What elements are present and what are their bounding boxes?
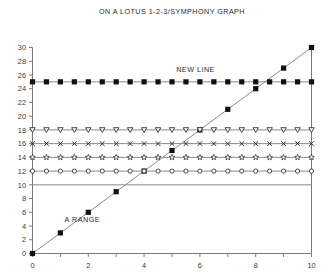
marker-filled-square <box>169 148 174 153</box>
marker-open-circle <box>86 169 90 173</box>
marker-open-circle <box>184 169 188 173</box>
marker-filled-square <box>239 79 244 84</box>
marker-filled-square <box>114 79 119 84</box>
marker-open-circle <box>44 169 48 173</box>
y-tick-label: 22 <box>18 98 26 107</box>
marker-filled-square <box>225 79 230 84</box>
marker-star <box>295 154 301 159</box>
y-tick-label: 24 <box>18 84 26 93</box>
marker-star <box>253 154 259 159</box>
marker-star <box>30 154 36 159</box>
marker-open-circle <box>295 169 299 173</box>
marker-star <box>44 154 50 159</box>
x-tick-label: 8 <box>254 261 258 270</box>
marker-open-circle <box>142 169 146 173</box>
marker-star <box>197 154 203 159</box>
x-tick-label: 6 <box>198 261 202 270</box>
marker-filled-square <box>211 79 216 84</box>
marker-filled-square <box>169 79 174 84</box>
marker-star <box>113 154 119 159</box>
y-tick-label: 6 <box>22 208 26 217</box>
marker-open-circle <box>100 169 104 173</box>
marker-star <box>85 154 91 159</box>
marker-filled-square <box>72 79 77 84</box>
y-tick-label: 12 <box>18 167 26 176</box>
marker-star <box>58 154 64 159</box>
marker-star <box>99 154 105 159</box>
marker-filled-square <box>30 251 35 256</box>
marker-filled-square <box>86 79 91 84</box>
x-tick-label: 10 <box>307 261 315 270</box>
lotus-symphony-line-chart: ON A LOTUS 1-2-3/SYMPHONY GRAPH024681012… <box>0 0 323 279</box>
marker-filled-square <box>197 79 202 84</box>
series-new-line <box>30 79 314 84</box>
x-tick-label: 2 <box>86 261 90 270</box>
marker-filled-square <box>267 79 272 84</box>
marker-open-circle <box>198 169 202 173</box>
annotation-a-range: A RANGE <box>65 215 100 224</box>
y-tick-label: 8 <box>22 194 26 203</box>
marker-open-circle <box>212 169 216 173</box>
marker-open-circle <box>30 169 34 173</box>
marker-star <box>225 154 231 159</box>
marker-open-circle <box>170 169 174 173</box>
series-a-range <box>30 45 314 256</box>
marker-filled-square <box>128 79 133 84</box>
marker-open-circle <box>58 169 62 173</box>
x-tick-label: 0 <box>30 261 34 270</box>
marker-open-circle <box>282 169 286 173</box>
y-tick-label: 2 <box>22 235 26 244</box>
marker-open-circle <box>226 169 230 173</box>
marker-star <box>127 154 133 159</box>
marker-filled-square <box>309 45 314 50</box>
series-line-14 <box>30 154 315 159</box>
marker-filled-square <box>183 79 188 84</box>
y-tick-label: 20 <box>18 112 26 121</box>
marker-filled-square <box>295 79 300 84</box>
marker-star <box>309 154 315 159</box>
y-tick-label: 10 <box>18 181 26 190</box>
marker-star <box>211 154 217 159</box>
marker-star <box>169 154 175 159</box>
marker-filled-square <box>309 79 314 84</box>
y-tick-label: 30 <box>18 43 26 52</box>
marker-filled-square <box>281 79 286 84</box>
y-tick-label: 16 <box>18 139 26 148</box>
chart-title: ON A LOTUS 1-2-3/SYMPHONY GRAPH <box>99 7 245 16</box>
y-tick-label: 18 <box>18 126 26 135</box>
marker-open-circle <box>114 169 118 173</box>
marker-star <box>267 154 273 159</box>
marker-open-circle <box>156 169 160 173</box>
y-tick-label: 28 <box>18 57 26 66</box>
marker-filled-square <box>58 79 63 84</box>
y-tick-label: 14 <box>18 153 26 162</box>
marker-open-circle <box>240 169 244 173</box>
marker-filled-square <box>30 79 35 84</box>
marker-star <box>72 154 78 159</box>
marker-star <box>239 154 245 159</box>
annotation-new-line: NEW LINE <box>176 65 215 74</box>
marker-open-circle <box>254 169 258 173</box>
y-tick-label: 26 <box>18 71 26 80</box>
marker-filled-square <box>253 86 258 91</box>
marker-open-circle <box>128 169 132 173</box>
marker-filled-square <box>58 230 63 235</box>
marker-filled-square <box>155 79 160 84</box>
y-tick-label: 0 <box>22 249 26 258</box>
chart-canvas: ON A LOTUS 1-2-3/SYMPHONY GRAPH024681012… <box>0 0 323 279</box>
series-line-16 <box>30 141 314 146</box>
marker-filled-square <box>44 79 49 84</box>
marker-star <box>183 154 189 159</box>
y-tick-label: 4 <box>22 222 26 231</box>
marker-filled-square <box>100 79 105 84</box>
marker-open-circle <box>268 169 272 173</box>
marker-filled-square <box>225 107 230 112</box>
series-line-18 <box>30 128 314 133</box>
marker-filled-square <box>114 189 119 194</box>
marker-filled-square <box>142 79 147 84</box>
marker-open-circle <box>309 169 313 173</box>
marker-filled-square <box>253 79 258 84</box>
marker-filled-square <box>281 66 286 71</box>
series-line-12 <box>30 169 313 173</box>
marker-star <box>141 154 147 159</box>
